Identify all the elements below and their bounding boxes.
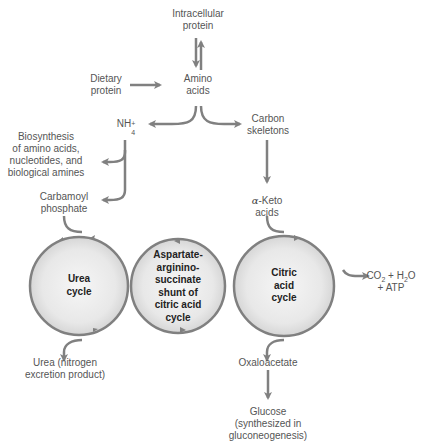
label-line: cycle <box>259 292 309 305</box>
node-intracellular-protein: Intracellular protein <box>165 8 231 32</box>
node-glucose: Glucose (synthesized in gluconeogenesis) <box>224 406 312 442</box>
shunt-label: Aspartate- argininо- succinate shunt of … <box>143 249 213 324</box>
node-alpha-keto-acids: α-Keto acids <box>244 195 290 219</box>
node-dietary-protein: Dietary protein <box>84 73 128 97</box>
node-nh4: NH+4 <box>113 118 141 130</box>
label-line: Glucose <box>224 406 312 418</box>
label-line: Urea <box>54 273 104 286</box>
node-urea: Urea (nitrogen excretion product) <box>20 357 110 381</box>
node-amino-acids: Amino acids <box>172 73 224 97</box>
node-biosynthesis: Biosynthesis of amino acids, nucleotides… <box>2 131 90 179</box>
label-line: (synthesized in <box>224 418 312 430</box>
node-carbamoyl-phosphate: Carbamoyl phosphate <box>38 191 90 215</box>
label-line: -Keto <box>258 195 282 206</box>
label-line: acids <box>244 207 290 219</box>
label-line: acids <box>172 85 224 97</box>
node-co2-h2o-atp: CO2 + H2O + ATP <box>360 270 422 294</box>
arrow-nh4-to-carbamoyl <box>103 150 125 200</box>
label-line: succinate <box>143 274 213 287</box>
label-line: Oxaloacetate <box>230 357 306 369</box>
reversible-arrow-icon <box>196 38 201 70</box>
label-line: argininо- <box>143 262 213 275</box>
label-line: Intracellular <box>165 8 231 20</box>
label-text: CO <box>366 270 381 281</box>
label-text: + H <box>385 270 404 281</box>
label-line: acid <box>259 280 309 293</box>
label-line: protein <box>165 20 231 32</box>
label-line: + ATP <box>360 282 422 294</box>
label-line: Urea (nitrogen <box>20 357 110 369</box>
arrow-carbamoyl-to-urea-cycle <box>64 216 82 232</box>
label-text: NH <box>117 118 131 129</box>
label-line: of amino acids, <box>2 143 90 155</box>
label-line: shunt of <box>143 287 213 300</box>
label-line: Aspartate- <box>143 249 213 262</box>
label-text: O <box>408 270 416 281</box>
label-line: citric acid <box>143 299 213 312</box>
label-line: biological amines <box>2 167 90 179</box>
arrow-amino-to-carbon <box>201 106 240 124</box>
node-carbon-skeletons: Carbon skeletons <box>242 113 294 137</box>
label-line: Biosynthesis <box>2 131 90 143</box>
label-line: Carbon <box>242 113 294 125</box>
label-line: cycle <box>143 312 213 325</box>
label-line: Amino <box>172 73 224 85</box>
label-line: Dietary <box>84 73 128 85</box>
label-line: cycle <box>54 286 104 299</box>
label-line: Citric <box>259 267 309 280</box>
label-line: Carbamoyl <box>38 191 90 203</box>
label-line: phosphate <box>38 203 90 215</box>
node-oxaloacetate: Oxaloacetate <box>230 357 306 369</box>
label-line: skeletons <box>242 125 294 137</box>
citric-acid-cycle-label: Citric acid cycle <box>259 267 309 305</box>
label-line: excretion product) <box>20 369 110 381</box>
label-line: gluconeogenesis) <box>224 430 312 442</box>
label-line: protein <box>84 85 128 97</box>
urea-cycle-label: Urea cycle <box>54 273 104 298</box>
arrow-nh4-to-biosynthesis <box>103 140 125 162</box>
label-line: nucleotides, and <box>2 155 90 167</box>
arrow-amino-to-nh4 <box>150 106 196 124</box>
